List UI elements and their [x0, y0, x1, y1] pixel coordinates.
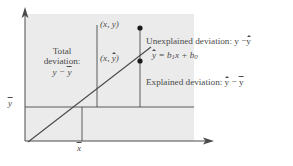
equation-yhat: y	[152, 50, 156, 60]
unexplained-deviation-yhat: y	[246, 36, 251, 46]
unexplained-deviation-minus: −	[239, 36, 246, 46]
total-deviation-line1: Total	[31, 46, 93, 56]
xbar-symbol: x	[77, 143, 81, 153]
observed-point-x: x	[103, 19, 107, 29]
regression-equation-label: y = b1x + b0	[152, 50, 198, 61]
overbar-glyph	[67, 66, 72, 67]
overbar-glyph	[239, 76, 244, 77]
predicted-point-label: (x, y)	[100, 53, 119, 63]
total-deviation-ybar: y	[67, 67, 71, 77]
ybar-axis-label: y	[8, 98, 12, 108]
hat-glyph	[247, 35, 251, 37]
observed-point-y: y	[112, 19, 116, 29]
observed-point-label: (x, y)	[100, 19, 119, 29]
total-deviation-expression: y − y	[31, 67, 93, 77]
equation-plus: +	[179, 50, 190, 60]
ybar-symbol: y	[8, 98, 12, 108]
unexplained-deviation-prefix: Unexplained deviation:	[146, 36, 234, 46]
equation-intercept-sub: 0	[194, 53, 197, 60]
total-deviation-label: Total deviation: y − y	[31, 46, 93, 77]
explained-deviation-yhat: y	[225, 77, 230, 87]
predicted-point-yhat: y	[112, 53, 116, 63]
total-deviation-minus: −	[57, 67, 68, 77]
overbar-glyph	[77, 142, 82, 143]
xbar-axis-label: x	[77, 143, 81, 153]
explained-deviation-minus: −	[229, 77, 239, 87]
explained-deviation-ybar: y	[239, 77, 244, 87]
regression-deviation-figure: Total deviation: y − y (x, y) (x, y) Une…	[0, 0, 293, 166]
explained-deviation-prefix: Explained deviation:	[146, 77, 225, 87]
explained-deviation-label: Explained deviation: y − y	[146, 77, 244, 87]
hat-glyph	[225, 76, 229, 78]
unexplained-deviation-label: Unexplained deviation: y −y	[146, 36, 251, 46]
predicted-point-marker	[137, 58, 142, 63]
hat-glyph	[152, 49, 156, 51]
total-deviation-line2: deviation:	[31, 56, 93, 66]
observed-point-marker	[137, 25, 142, 30]
predicted-point-x: x	[103, 53, 107, 63]
hat-glyph	[112, 52, 116, 54]
overbar-glyph	[8, 97, 13, 98]
equation-eq: =	[156, 50, 167, 60]
